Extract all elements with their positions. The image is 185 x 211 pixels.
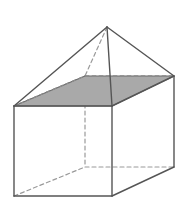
composite-solid-diagram	[0, 0, 185, 211]
figure-canvas	[0, 0, 185, 211]
prism-front-face	[14, 106, 112, 196]
